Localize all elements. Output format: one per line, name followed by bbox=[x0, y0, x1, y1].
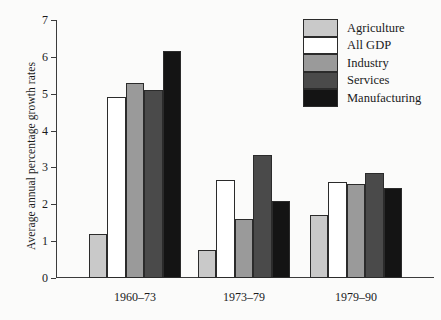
y-axis-line bbox=[56, 20, 57, 278]
y-tick-label: 7 bbox=[42, 14, 48, 26]
legend: AgricultureAll GDPIndustryServicesManufa… bbox=[303, 19, 421, 107]
y-tick-mark bbox=[51, 241, 56, 242]
legend-label: Manufacturing bbox=[347, 92, 421, 105]
y-tick-label: 3 bbox=[42, 161, 48, 173]
y-tick-mark bbox=[51, 20, 56, 21]
y-tick-label: 2 bbox=[42, 198, 48, 210]
bar-services-196073 bbox=[144, 90, 162, 278]
legend-swatch-services bbox=[303, 72, 338, 90]
legend-label: Services bbox=[347, 74, 389, 87]
y-tick-label: 0 bbox=[42, 272, 48, 284]
bar-agriculture-197990 bbox=[310, 215, 328, 278]
y-tick-label: 4 bbox=[42, 125, 48, 137]
y-tick-label: 5 bbox=[42, 88, 48, 100]
y-tick-mark bbox=[51, 131, 56, 132]
legend-item-agriculture: Agriculture bbox=[303, 19, 421, 37]
bar-manufacturing-196073 bbox=[163, 51, 181, 278]
bar-allgdp-197990 bbox=[328, 182, 346, 278]
y-tick-mark bbox=[51, 94, 56, 95]
y-tick-mark bbox=[51, 57, 56, 58]
bar-manufacturing-197379 bbox=[272, 201, 290, 278]
bar-agriculture-197379 bbox=[198, 250, 216, 278]
legend-label: Agriculture bbox=[347, 22, 405, 35]
y-tick-mark bbox=[51, 278, 56, 279]
bar-chart: Average annual percentage growth rates 0… bbox=[0, 0, 441, 320]
legend-label: All GDP bbox=[347, 39, 391, 52]
legend-swatch-industry bbox=[303, 54, 338, 72]
legend-label: Industry bbox=[347, 57, 389, 70]
bar-industry-196073 bbox=[126, 83, 144, 278]
legend-item-services: Services bbox=[303, 72, 421, 90]
legend-item-allgdp: All GDP bbox=[303, 37, 421, 55]
legend-swatch-allgdp bbox=[303, 37, 338, 55]
y-axis-title: Average annual percentage growth rates bbox=[25, 31, 37, 281]
legend-item-industry: Industry bbox=[303, 54, 421, 72]
bar-services-197990 bbox=[365, 173, 383, 278]
bar-industry-197990 bbox=[347, 184, 365, 278]
y-tick-mark bbox=[51, 204, 56, 205]
bar-agriculture-196073 bbox=[89, 234, 107, 278]
bar-allgdp-197379 bbox=[216, 180, 234, 278]
legend-swatch-agriculture bbox=[303, 19, 338, 37]
bar-allgdp-196073 bbox=[107, 97, 125, 278]
legend-swatch-manufacturing bbox=[303, 89, 338, 107]
x-category-label: 1973–79 bbox=[223, 290, 265, 305]
bar-industry-197379 bbox=[235, 219, 253, 278]
y-tick-mark bbox=[51, 167, 56, 168]
x-category-label: 1960–73 bbox=[114, 290, 156, 305]
y-tick-label: 6 bbox=[42, 51, 48, 63]
bar-manufacturing-197990 bbox=[384, 188, 402, 278]
y-tick-label: 1 bbox=[42, 235, 48, 247]
bar-services-197379 bbox=[253, 155, 271, 278]
legend-item-manufacturing: Manufacturing bbox=[303, 89, 421, 107]
x-category-label: 1979–90 bbox=[335, 290, 377, 305]
